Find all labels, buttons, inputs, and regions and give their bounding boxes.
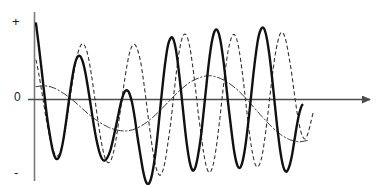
series-group <box>36 23 313 184</box>
y-axis-label-positive: + <box>12 15 20 28</box>
solid-waveform-curve <box>36 23 302 184</box>
signal-plot-figure: + 0 - <box>0 0 389 185</box>
y-axis-label-negative: - <box>14 166 18 179</box>
slow-trend-curve <box>36 76 308 142</box>
plot-canvas <box>0 0 389 185</box>
y-axis-label-zero: 0 <box>14 91 21 103</box>
